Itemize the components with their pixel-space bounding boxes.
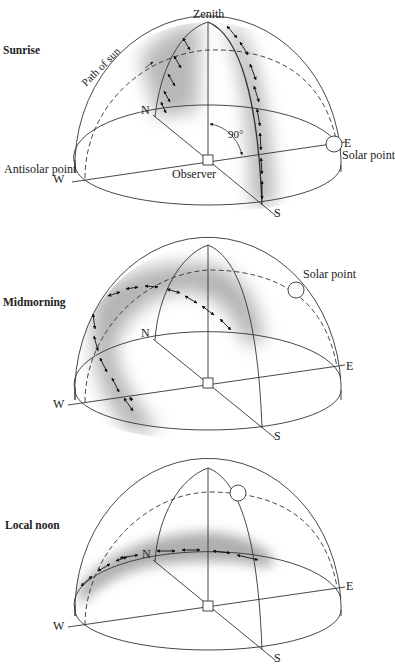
antisolar-point-label: Antisolar point [4, 163, 76, 176]
north-label: N [141, 327, 150, 340]
west-label: W [53, 173, 64, 186]
polarization-band-shading [78, 532, 275, 605]
observer-marker [203, 378, 213, 388]
south-label: S [274, 652, 281, 665]
solar-point-circle [326, 136, 342, 152]
observer-label: Observer [172, 168, 216, 181]
east-label: E [346, 580, 353, 593]
north-label: N [142, 548, 151, 561]
solar-point-circle [230, 485, 246, 501]
polarization-band-shading [92, 264, 265, 432]
west-label: W [53, 398, 64, 411]
north-label: N [141, 104, 150, 117]
panel-title-local-noon: Local noon [5, 519, 60, 531]
south-label: S [274, 430, 281, 443]
sky-dome-diagram [0, 0, 395, 665]
horizon-front [75, 610, 341, 650]
panel-title-midmorning: Midmorning [3, 296, 66, 308]
solar-point-circle [288, 282, 304, 298]
observer-marker [203, 155, 213, 165]
east-label: E [346, 360, 353, 373]
panel-title-sunrise: Sunrise [3, 44, 40, 56]
solar-point-label: Solar point [342, 149, 395, 162]
solar-point-label: Solar point [303, 268, 356, 281]
west-label: W [53, 620, 64, 633]
angle-label: 90° [228, 128, 243, 141]
observer-marker [203, 601, 213, 611]
south-label: S [274, 207, 281, 220]
panel-local-noon [68, 458, 345, 660]
zenith-label: Zenith [193, 8, 224, 21]
